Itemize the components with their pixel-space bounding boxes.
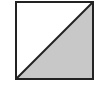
diagram-canvas xyxy=(0,0,100,87)
split-square-diagram xyxy=(0,0,100,87)
